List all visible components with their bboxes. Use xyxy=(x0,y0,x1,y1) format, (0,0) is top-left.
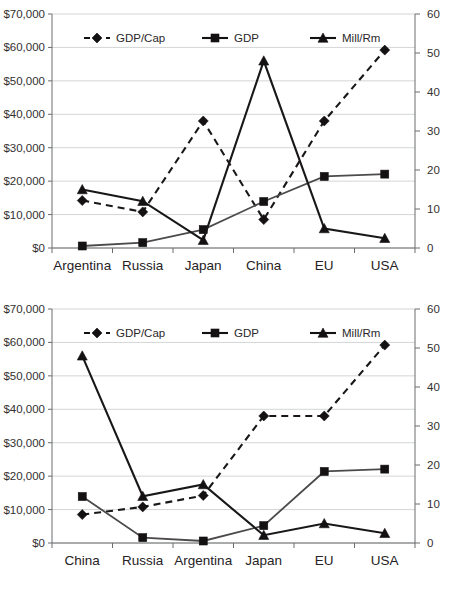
x-axis-category-label: China xyxy=(65,553,101,568)
left-axis-tick-label: $20,000 xyxy=(3,175,45,187)
series-line-gdp xyxy=(82,469,385,541)
data-point-diamond xyxy=(77,196,87,206)
series-line-mill-rm xyxy=(82,356,385,535)
right-axis-tick-label: 50 xyxy=(427,47,440,59)
x-axis-category-label: Argentina xyxy=(174,553,232,568)
data-point-square xyxy=(139,534,147,542)
right-axis-tick-label: 50 xyxy=(427,342,440,354)
left-axis-tick-label: $10,000 xyxy=(3,504,45,516)
right-axis-tick-label: 60 xyxy=(427,8,440,20)
left-axis-tick-label: $50,000 xyxy=(3,370,45,382)
data-point-square xyxy=(320,467,328,475)
data-point-diamond xyxy=(138,502,148,512)
x-axis-category-label: Argentina xyxy=(53,258,111,273)
legend-square-icon xyxy=(211,34,219,42)
data-point-square xyxy=(78,493,86,501)
x-axis-category-label: EU xyxy=(315,258,334,273)
data-point-diamond xyxy=(319,116,329,126)
data-point-square xyxy=(78,242,86,250)
data-point-triangle xyxy=(77,351,87,360)
left-axis-tick-label: $70,000 xyxy=(3,8,45,20)
legend-diamond-icon xyxy=(92,328,102,338)
legend-label: GDP/Cap xyxy=(116,32,165,44)
data-point-diamond xyxy=(198,116,208,126)
x-axis-category-label: Russia xyxy=(122,258,164,273)
x-axis-category-label: EU xyxy=(315,553,334,568)
left-axis-tick-label: $60,000 xyxy=(3,336,45,348)
right-axis-tick-label: 40 xyxy=(427,381,440,393)
right-axis-tick-label: 30 xyxy=(427,125,440,137)
data-point-diamond xyxy=(198,491,208,501)
left-axis-tick-label: $30,000 xyxy=(3,142,45,154)
right-axis-tick-label: 0 xyxy=(427,537,433,549)
right-axis-tick-label: 20 xyxy=(427,164,440,176)
right-axis-tick-label: 60 xyxy=(427,303,440,315)
x-axis-category-label: USA xyxy=(371,553,399,568)
left-axis-tick-label: $0 xyxy=(32,242,45,254)
chart-top-canvas: $0$10,000$20,000$30,000$40,000$50,000$60… xyxy=(0,0,459,295)
left-axis-tick-label: $70,000 xyxy=(3,303,45,315)
right-axis-tick-label: 10 xyxy=(427,498,440,510)
left-axis-tick-label: $50,000 xyxy=(3,75,45,87)
x-axis-category-label: Japan xyxy=(185,258,222,273)
data-point-diamond xyxy=(380,340,390,350)
x-axis-category-label: USA xyxy=(371,258,399,273)
left-axis-tick-label: $60,000 xyxy=(3,41,45,53)
data-point-triangle xyxy=(259,56,269,65)
right-axis-tick-label: 30 xyxy=(427,420,440,432)
legend-label: Mill/Rm xyxy=(342,32,380,44)
right-axis-tick-label: 0 xyxy=(427,242,433,254)
chart-bottom-canvas: $0$10,000$20,000$30,000$40,000$50,000$60… xyxy=(0,295,459,590)
legend-label: GDP/Cap xyxy=(116,327,165,339)
data-point-square xyxy=(381,465,389,473)
series-line-gdp xyxy=(82,174,385,246)
series-line-gdp-cap xyxy=(82,345,385,514)
series-line-gdp-cap xyxy=(82,50,385,219)
right-axis-tick-label: 10 xyxy=(427,203,440,215)
x-axis-category-label: Japan xyxy=(245,553,282,568)
left-axis-tick-label: $30,000 xyxy=(3,437,45,449)
data-point-square xyxy=(260,198,268,206)
data-point-diamond xyxy=(319,411,329,421)
series-line-mill-rm xyxy=(82,61,385,240)
left-axis-tick-label: $0 xyxy=(32,537,45,549)
left-axis-tick-label: $40,000 xyxy=(3,403,45,415)
right-axis-tick-label: 20 xyxy=(427,459,440,471)
chart-top-container: $0$10,000$20,000$30,000$40,000$50,000$60… xyxy=(0,0,459,295)
right-axis-tick-label: 40 xyxy=(427,86,440,98)
left-axis-tick-label: $40,000 xyxy=(3,108,45,120)
legend-label: GDP xyxy=(234,327,259,339)
data-point-square xyxy=(139,239,147,247)
data-point-square xyxy=(199,537,207,545)
data-point-diamond xyxy=(77,510,87,520)
chart-bottom-container: $0$10,000$20,000$30,000$40,000$50,000$60… xyxy=(0,295,459,590)
legend-diamond-icon xyxy=(92,33,102,43)
data-point-diamond xyxy=(259,215,269,225)
charts-page: $0$10,000$20,000$30,000$40,000$50,000$60… xyxy=(0,0,459,590)
x-axis-category-label: China xyxy=(246,258,282,273)
data-point-square xyxy=(260,522,268,530)
left-axis-tick-label: $10,000 xyxy=(3,209,45,221)
legend-square-icon xyxy=(211,329,219,337)
legend-label: GDP xyxy=(234,32,259,44)
data-point-square xyxy=(381,170,389,178)
data-point-triangle xyxy=(198,235,208,244)
legend-label: Mill/Rm xyxy=(342,327,380,339)
data-point-square xyxy=(320,172,328,180)
data-point-diamond xyxy=(380,45,390,55)
left-axis-tick-label: $20,000 xyxy=(3,470,45,482)
x-axis-category-label: Russia xyxy=(122,553,164,568)
